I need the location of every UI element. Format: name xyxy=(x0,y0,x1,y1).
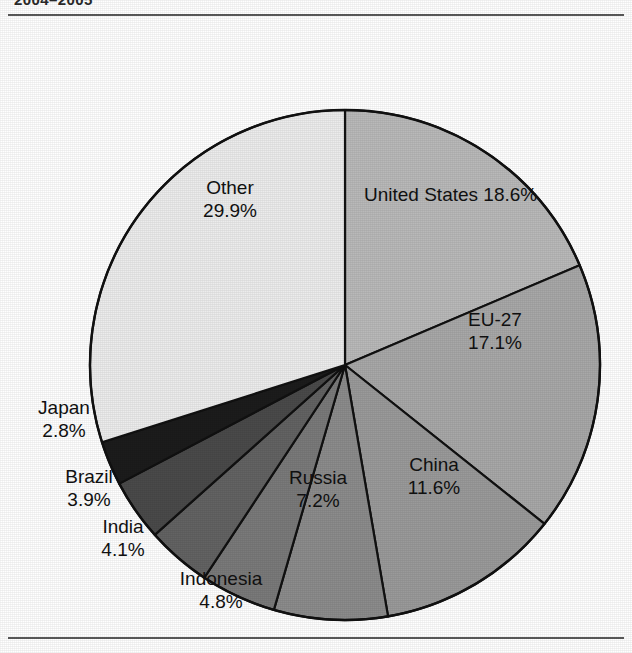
pie-label-indonesia-line1: Indonesia xyxy=(146,567,296,590)
rule-top xyxy=(8,14,624,16)
rule-bottom xyxy=(8,637,624,639)
pie-label-indonesia-line2: 4.8% xyxy=(146,590,296,613)
pie-label-eu-27-line1: EU-27 xyxy=(440,308,550,331)
pie-label-united-states-line1: United States 18.6% xyxy=(364,183,537,206)
pie-chart: United States 18.6% EU-27 17.1% China 11… xyxy=(0,18,632,634)
pie-label-united-states: United States 18.6% xyxy=(364,183,537,206)
figure-container: 2004–2005 United States 18.6% EU-27 17.1… xyxy=(0,0,632,653)
figure-caption-cropped: 2004–2005 xyxy=(14,0,93,8)
pie-label-china: China 11.6% xyxy=(382,453,486,499)
pie-label-japan-line1: Japan xyxy=(8,396,120,419)
pie-label-indonesia: Indonesia 4.8% xyxy=(146,567,296,613)
pie-label-india: India 4.1% xyxy=(68,515,178,561)
pie-label-other-line1: Other xyxy=(168,176,292,199)
pie-label-china-line1: China xyxy=(382,453,486,476)
pie-label-brazil-line1: Brazil xyxy=(33,465,145,488)
pie-label-russia-line2: 7.2% xyxy=(264,489,372,512)
pie-label-russia-line1: Russia xyxy=(264,466,372,489)
pie-label-eu-27-line2: 17.1% xyxy=(440,331,550,354)
pie-label-india-line2: 4.1% xyxy=(68,538,178,561)
pie-label-russia: Russia 7.2% xyxy=(264,466,372,512)
pie-label-other-line2: 29.9% xyxy=(168,199,292,222)
pie-label-india-line1: India xyxy=(68,515,178,538)
pie-label-brazil: Brazil 3.9% xyxy=(33,465,145,511)
pie-label-japan: Japan 2.8% xyxy=(8,396,120,442)
pie-label-other: Other 29.9% xyxy=(168,176,292,222)
pie-label-japan-line2: 2.8% xyxy=(8,419,120,442)
pie-label-china-line2: 11.6% xyxy=(382,476,486,499)
pie-label-brazil-line2: 3.9% xyxy=(33,488,145,511)
pie-label-eu-27: EU-27 17.1% xyxy=(440,308,550,354)
